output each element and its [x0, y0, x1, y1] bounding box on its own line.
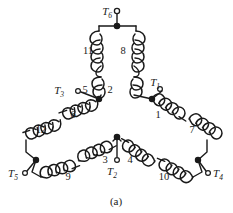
coil-label-11: 11 — [83, 45, 93, 56]
terminal-label-T5: T5 — [8, 167, 18, 182]
terminal-dot-T2 — [115, 158, 120, 163]
terminal-label-T2: T2 — [107, 165, 117, 180]
coil-4 — [116, 137, 158, 169]
terminal-label-T6: T6 — [102, 5, 112, 20]
terminal-label-T3: T3 — [54, 84, 64, 99]
coil-label-3: 3 — [102, 154, 107, 165]
coil-label-6: 6 — [70, 109, 75, 120]
terminal-label-T4: T4 — [213, 167, 223, 182]
winding-diagram-svg: T1 T2 T3 T4 T5 T6 1 2 3 4 5 6 7 8 9 10 1… — [0, 0, 233, 213]
terminal-dot-T5 — [23, 171, 28, 176]
terminal-dot-T3 — [76, 89, 81, 94]
figure-caption: (a) — [110, 195, 123, 208]
coil-label-9: 9 — [65, 171, 70, 182]
coil-5 — [92, 77, 105, 99]
junction-top-node — [114, 23, 119, 28]
coil-label-12: 12 — [36, 124, 47, 135]
coil-label-10: 10 — [159, 171, 170, 182]
terminal-dot-T4 — [206, 171, 211, 176]
coil-label-4: 4 — [127, 154, 133, 165]
coil-label-5: 5 — [82, 84, 87, 95]
coil-label-1: 1 — [155, 109, 160, 120]
coil-6 — [58, 94, 100, 125]
coil-label-7: 7 — [189, 124, 194, 135]
coil-2 — [130, 77, 152, 99]
coil-8 — [132, 31, 145, 77]
terminal-label-T1: T1 — [150, 76, 160, 91]
terminal-dot-T6 — [114, 8, 119, 13]
coil-label-2: 2 — [107, 84, 112, 95]
coil-label-8: 8 — [120, 45, 125, 56]
coil-3 — [75, 135, 117, 167]
coil-9 — [38, 154, 81, 182]
winding-diagram-figure: T1 T2 T3 T4 T5 T6 1 2 3 4 5 6 7 8 9 10 1… — [0, 0, 233, 213]
junction-bottom-apex — [114, 134, 119, 139]
